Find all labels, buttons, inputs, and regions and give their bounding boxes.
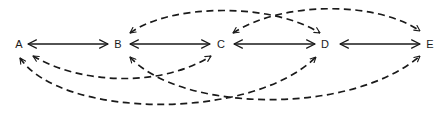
- dashed-edge-b-e: [130, 56, 420, 100]
- dashed-edge-a-d: [20, 57, 316, 104]
- node-b: B: [114, 38, 121, 50]
- node-d: D: [321, 38, 329, 50]
- dashed-edge-a-c: [33, 56, 211, 79]
- node-a: A: [15, 38, 23, 50]
- node-e: E: [426, 38, 433, 50]
- dashed-edge-b-d: [130, 10, 320, 33]
- graph-diagram: A B C D E: [0, 0, 447, 118]
- node-c: C: [217, 38, 225, 50]
- dashed-edge-c-e: [233, 9, 420, 33]
